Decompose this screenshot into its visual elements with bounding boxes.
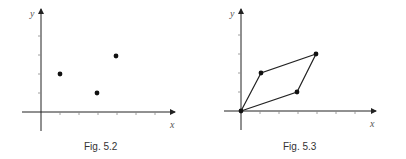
data-point [114, 54, 119, 59]
x-axis-label: x [369, 118, 375, 129]
x-axis-label: x [169, 119, 175, 130]
data-point [314, 52, 319, 57]
data-point [259, 71, 264, 76]
y-axis-label: y [29, 8, 35, 19]
data-point [295, 90, 300, 95]
data-point [239, 109, 244, 114]
parallelogram [241, 54, 316, 111]
fig-5-2-plot: y x [22, 8, 175, 131]
data-point [58, 72, 63, 77]
data-point [95, 91, 100, 96]
y-axis-label: y [229, 8, 235, 19]
figure-caption: Fig. 5.2 [84, 141, 117, 152]
figures-canvas: y x y x [0, 0, 406, 159]
fig-5-3-plot: y x [224, 8, 376, 130]
figure-caption: Fig. 5.3 [283, 141, 316, 152]
